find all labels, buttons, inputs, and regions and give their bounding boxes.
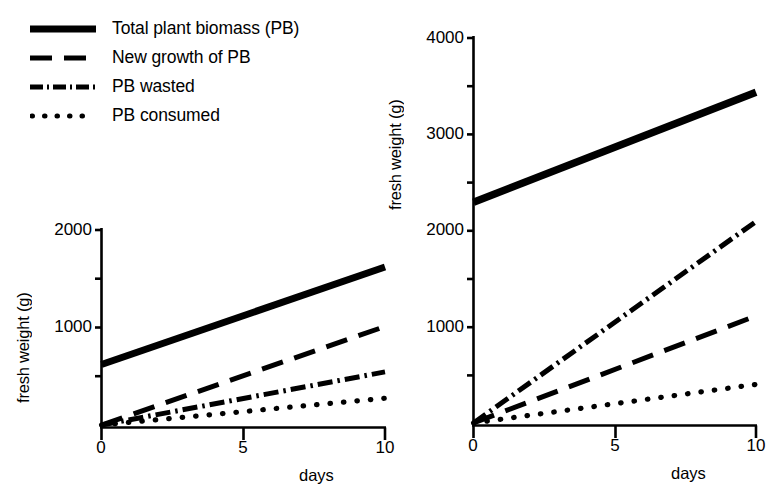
legend-swatch-solid-thick	[30, 22, 96, 36]
right-xtick-10: 10	[747, 436, 766, 456]
right-series-pb-wasted	[474, 222, 757, 424]
right-xtick-5: 5	[610, 436, 619, 456]
right-ytick-4000: 4000	[406, 28, 464, 48]
right-ytick-3000: 3000	[406, 124, 464, 144]
left-series-total-plant-biomass	[102, 267, 386, 365]
legend-swatch-dashed	[30, 51, 96, 65]
left-plot-area	[95, 20, 395, 440]
right-series-pb-consumed	[474, 384, 757, 423]
left-xtick-5: 5	[238, 438, 247, 458]
left-ytick-1000: 1000	[34, 317, 92, 337]
right-ytick-1000: 1000	[406, 317, 464, 337]
legend-swatch-dotted	[30, 109, 96, 123]
right-xtick-0: 0	[468, 436, 477, 456]
left-x-axis-title: days	[299, 466, 334, 485]
legend-swatch-dash-dot	[30, 80, 96, 94]
right-series-new-growth	[474, 316, 757, 423]
left-y-axis-title: fresh weight (g)	[14, 243, 33, 403]
left-xtick-0: 0	[96, 438, 105, 458]
figure-container: Total plant biomass (PB) New growth of P…	[0, 0, 776, 499]
right-x-axis-title: days	[671, 464, 706, 483]
right-y-axis-title: fresh weight (g)	[386, 50, 405, 210]
right-ytick-2000: 2000	[406, 220, 464, 240]
left-series-new-growth	[102, 327, 386, 426]
left-xtick-10: 10	[376, 438, 395, 458]
right-plot-area	[467, 20, 767, 440]
left-series-pb-wasted	[102, 372, 386, 425]
left-ytick-2000: 2000	[34, 220, 92, 240]
right-series-total-plant-biomass	[474, 92, 757, 202]
